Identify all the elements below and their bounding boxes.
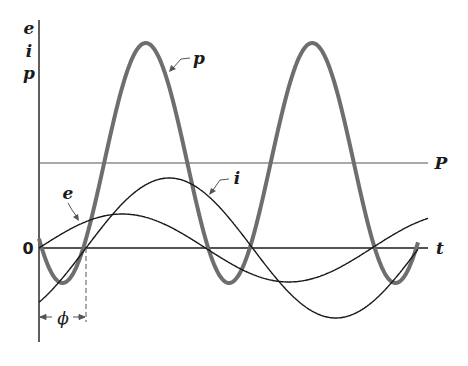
power-leader-arrow — [173, 58, 190, 68]
axis-label-e: e — [24, 18, 35, 38]
axis-label-t: t — [436, 238, 444, 258]
waveform-diagram: ϕ e i p 0 t P p i e — [0, 0, 468, 366]
voltage-leader-arrow — [68, 203, 77, 217]
current-leader-arrow — [213, 179, 229, 190]
power-curve-label: p — [193, 48, 205, 68]
current-curve-label: i — [234, 168, 240, 188]
voltage-curve-label: e — [63, 183, 74, 203]
average-power-label: P — [434, 153, 449, 173]
axis-label-i: i — [26, 41, 32, 61]
origin-label: 0 — [22, 239, 33, 258]
current-arrowhead — [209, 188, 216, 195]
axis-label-p: p — [23, 63, 35, 83]
phase-label: ϕ — [57, 308, 69, 328]
